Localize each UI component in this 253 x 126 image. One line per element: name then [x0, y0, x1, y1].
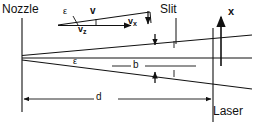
velocity-z-subscript: z — [83, 28, 87, 35]
figure-canvas: Nozzle Slit Laser x ε b d ε v vz vx — [0, 0, 253, 126]
velocity-z-label: vz — [78, 25, 87, 35]
vector-angle-epsilon-label: ε — [63, 7, 67, 16]
beam-angle-epsilon-label: ε — [73, 57, 77, 66]
x-axis-label: x — [228, 6, 234, 17]
laser-label: Laser — [213, 105, 243, 117]
velocity-triangle-edge — [150, 12, 151, 23]
slit-label: Slit — [160, 3, 177, 15]
distance-label: d — [96, 92, 102, 102]
velocity-label: v — [90, 6, 96, 16]
beam-width-label: b — [133, 60, 139, 70]
velocity-x-subscript: x — [133, 20, 137, 27]
nozzle-label: Nozzle — [2, 3, 39, 15]
velocity-x-label: vx — [128, 17, 137, 27]
beam-upper-edge — [22, 35, 252, 56]
